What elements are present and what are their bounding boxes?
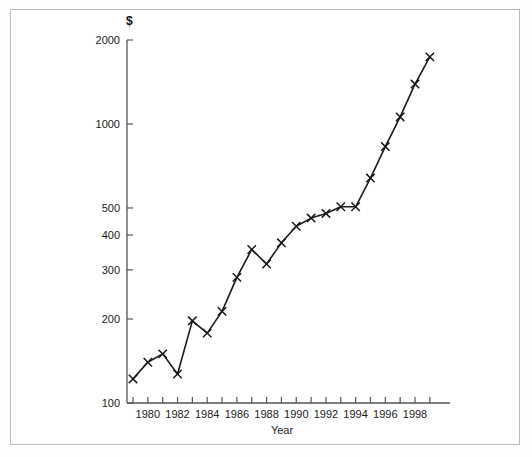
- x-tick-label-1990: 1990: [284, 408, 308, 420]
- chart-page: 10020030040050010002000 1980198219841986…: [0, 0, 532, 457]
- y-tick-label-300: 300: [60, 264, 120, 276]
- y-axis-title: $: [126, 14, 133, 28]
- data-point-1985: [218, 307, 226, 315]
- data-series: [129, 53, 434, 383]
- y-tick-label-1000: 1000: [60, 118, 120, 130]
- x-tick-label-1996: 1996: [373, 408, 397, 420]
- y-tick-label-100: 100: [60, 397, 120, 409]
- data-point-1996: [381, 142, 389, 150]
- series-line: [133, 57, 430, 379]
- x-tick-label-1998: 1998: [403, 408, 427, 420]
- data-point-1987: [248, 245, 256, 253]
- data-point-1998: [411, 80, 419, 88]
- x-axis-title: Year: [271, 424, 293, 436]
- y-tick-label-400: 400: [60, 229, 120, 241]
- data-point-1991: [307, 214, 315, 222]
- data-point-1990: [292, 222, 300, 230]
- x-tick-label-1980: 1980: [136, 408, 160, 420]
- x-tick-label-1982: 1982: [165, 408, 189, 420]
- data-point-1984: [203, 329, 211, 337]
- y-tick-label-200: 200: [60, 313, 120, 325]
- x-tick-label-1986: 1986: [225, 408, 249, 420]
- x-tick-label-1994: 1994: [343, 408, 367, 420]
- x-tick-label-1988: 1988: [254, 408, 278, 420]
- data-point-1986: [233, 273, 241, 281]
- tick-marks: [127, 40, 430, 403]
- x-tick-label-1984: 1984: [195, 408, 219, 420]
- axes: [127, 40, 450, 403]
- data-point-1979: [129, 375, 137, 383]
- y-tick-label-500: 500: [60, 202, 120, 214]
- data-point-1992: [322, 209, 330, 217]
- x-tick-label-1992: 1992: [314, 408, 338, 420]
- data-point-1995: [366, 174, 374, 182]
- data-point-1989: [277, 239, 285, 247]
- data-point-1997: [396, 113, 404, 121]
- data-point-1980: [144, 358, 152, 366]
- data-point-1988: [262, 260, 270, 268]
- data-point-1999: [426, 53, 434, 61]
- y-tick-label-2000: 2000: [60, 34, 120, 46]
- data-point-1981: [158, 350, 166, 358]
